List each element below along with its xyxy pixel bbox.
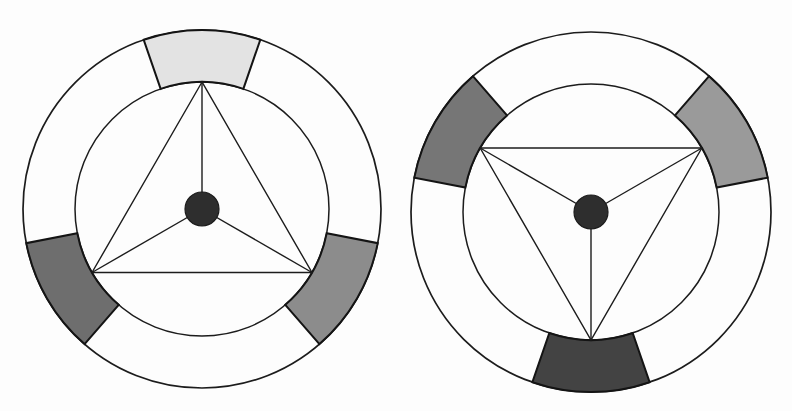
canvas-background [0, 0, 792, 411]
right-figure-segment-bottom [532, 333, 649, 392]
right-figure-center-hub [574, 195, 608, 229]
left-figure-segment-top [144, 30, 261, 89]
diagram-canvas [0, 0, 792, 411]
left-figure-center-hub [185, 192, 219, 226]
